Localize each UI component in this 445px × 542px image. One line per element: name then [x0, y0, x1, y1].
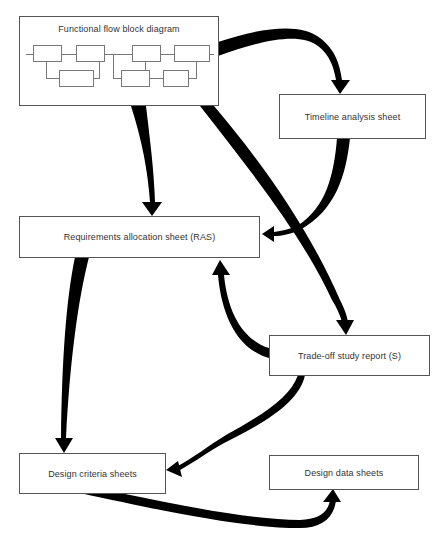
ffbd-wire — [113, 78, 121, 79]
node-requirements-allocation-sheet: Requirements allocation sheet (RAS) — [19, 216, 260, 258]
ffbd-wire — [46, 62, 47, 79]
node-label: Timeline analysis sheet — [305, 112, 401, 122]
ffbd-block-4 — [132, 45, 161, 62]
arrow-tradeoff-to-ras — [212, 260, 269, 358]
node-functional-flow-block-diagram: Functional flow block diagram — [19, 16, 219, 106]
arrow-ras-to-criteria — [55, 257, 89, 453]
arrow-ffbd-to-timeline — [218, 28, 350, 94]
ffbd-block-3 — [59, 70, 94, 87]
node-design-data-sheets: Design data sheets — [269, 455, 419, 490]
ffbd-block-1 — [33, 45, 62, 62]
ffbd-block-7 — [163, 70, 189, 87]
ffbd-wire — [150, 78, 163, 79]
ffbd-block-6 — [121, 70, 150, 87]
ffbd-block-2 — [76, 45, 105, 62]
flow-diagram: Functional flow block diagram — [0, 0, 445, 542]
arrow-ffbd-to-ras — [131, 106, 162, 216]
node-trade-off-study-report: Trade-off study report (S) — [269, 335, 430, 376]
arrow-criteria-to-data — [80, 489, 341, 528]
node-label: Trade-off study report (S) — [298, 351, 401, 361]
node-timeline-analysis-sheet: Timeline analysis sheet — [279, 94, 426, 139]
ffbd-mini-diagram — [20, 17, 218, 105]
node-design-criteria-sheets: Design criteria sheets — [19, 453, 166, 494]
ffbd-wire — [99, 62, 100, 79]
ffbd-wire — [145, 62, 146, 70]
ffbd-wire — [94, 78, 100, 79]
ffbd-block-5 — [174, 45, 210, 62]
node-label: Design data sheets — [305, 468, 384, 478]
ffbd-wire — [113, 54, 114, 78]
node-label: Requirements allocation sheet (RAS) — [64, 232, 216, 242]
ffbd-wire — [189, 78, 196, 79]
ffbd-wire — [196, 62, 197, 79]
ffbd-wire — [46, 78, 59, 79]
node-label: Design criteria sheets — [48, 469, 137, 479]
